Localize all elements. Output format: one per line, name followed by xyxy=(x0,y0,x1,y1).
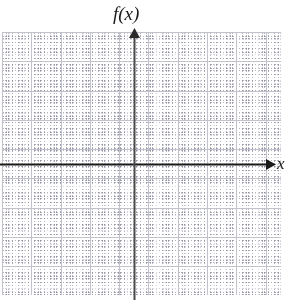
major-gridlines xyxy=(2,32,281,295)
x-axis-label: x xyxy=(277,155,285,172)
grid-background xyxy=(2,32,281,295)
coordinate-plane-figure: f(x) x xyxy=(0,0,290,308)
y-axis-label: f(x) xyxy=(113,4,139,23)
